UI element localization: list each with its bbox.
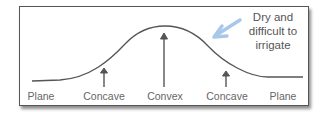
label-plane-right: Plane xyxy=(270,90,297,102)
annotation-text: Dry and difficult to irrigate xyxy=(240,10,306,52)
annotation-line-3: irrigate xyxy=(240,38,306,52)
annotation-line-2: difficult to xyxy=(240,24,306,38)
label-plane-left: Plane xyxy=(28,90,55,102)
convex-arrow-icon xyxy=(161,33,168,87)
concave-left-arrow-icon xyxy=(101,68,108,87)
label-convex: Convex xyxy=(147,90,183,102)
label-concave-left: Concave xyxy=(83,90,124,102)
annotation-arrow-icon xyxy=(214,20,240,37)
label-concave-right: Concave xyxy=(206,90,247,102)
annotation-line-1: Dry and xyxy=(240,10,306,24)
concave-right-arrow-icon xyxy=(223,71,230,87)
